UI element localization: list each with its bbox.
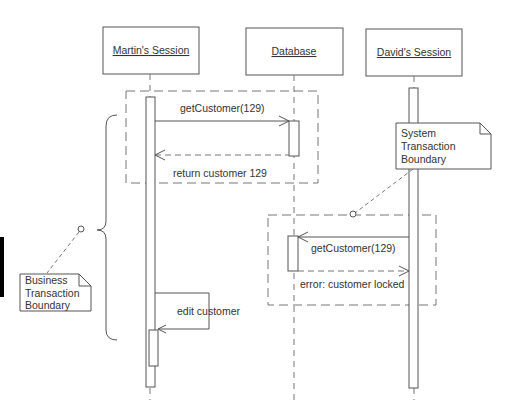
note-line: Boundary — [25, 299, 71, 311]
message-return-customer: return customer 129 — [155, 150, 289, 179]
business-transaction-brace — [97, 115, 117, 340]
system-note-connector — [355, 169, 413, 213]
activation-database-1 — [289, 121, 299, 156]
edge-bar — [0, 237, 4, 297]
message-error-locked: error: customer locked — [298, 266, 409, 290]
participant-david: David's Session — [366, 29, 462, 76]
activation-database-2 — [288, 236, 298, 271]
activation-martin-edit — [149, 330, 158, 366]
note-system-transaction: System Transaction Boundary — [396, 123, 491, 169]
note-line: Transaction — [401, 140, 456, 152]
note-line: Business — [25, 274, 68, 286]
message-get-customer-martin: getCustomer(129) — [155, 102, 289, 126]
note-line: Transaction — [25, 287, 80, 299]
note-business-transaction: Business Transaction Boundary — [20, 274, 91, 311]
sequence-diagram: Martin's Session Database David's Sessio… — [0, 0, 511, 418]
participant-database: Database — [246, 28, 343, 75]
note-line: System — [401, 127, 436, 139]
participant-label: Database — [272, 45, 317, 57]
note-line: Boundary — [401, 153, 447, 165]
message-label: error: customer locked — [300, 278, 405, 290]
business-note-anchor — [78, 226, 84, 232]
message-get-customer-david: getCustomer(129) — [298, 232, 409, 254]
participant-label: David's Session — [377, 46, 452, 58]
message-label: return customer 129 — [173, 167, 267, 179]
participant-label: Martin's Session — [113, 44, 190, 56]
business-note-connector — [47, 232, 79, 273]
message-edit-customer: edit customer — [155, 293, 241, 333]
message-label: getCustomer(129) — [311, 242, 396, 254]
participant-martin: Martin's Session — [103, 27, 199, 74]
message-label: edit customer — [177, 305, 241, 317]
system-note-anchor — [350, 211, 356, 217]
message-label: getCustomer(129) — [180, 102, 265, 114]
